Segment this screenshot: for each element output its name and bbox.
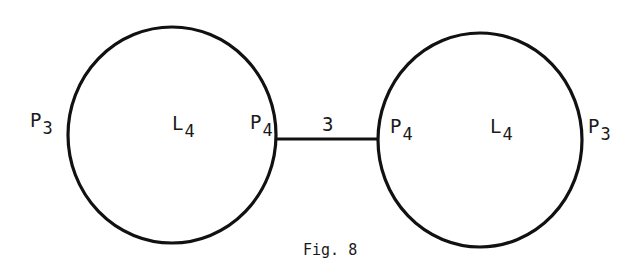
left-loop-label: L4 [172, 114, 195, 133]
left-loop-circle [68, 27, 276, 243]
figure-diagram [0, 0, 635, 277]
right-loop-label: L4 [490, 117, 513, 136]
left-inner-vertex-label: P4 [250, 113, 273, 132]
figure-caption: Fig. 8 [303, 241, 357, 259]
right-outer-vertex-label: P3 [588, 117, 611, 136]
left-outer-vertex-label: P3 [30, 111, 53, 130]
connector-label: 3 [322, 115, 333, 134]
right-inner-vertex-label: P4 [390, 117, 413, 136]
